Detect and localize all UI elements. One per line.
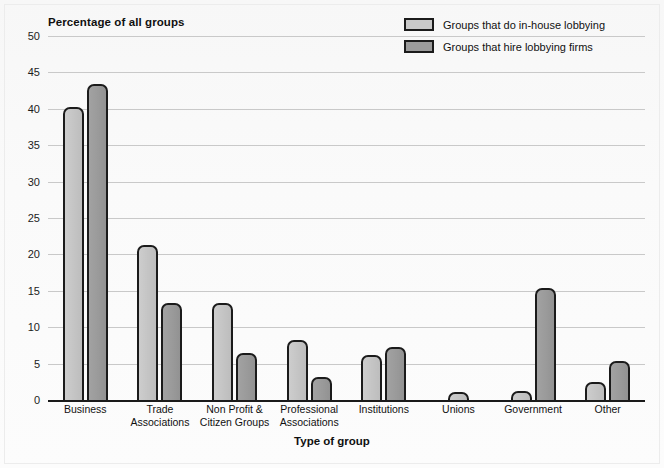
bar-group — [197, 36, 272, 400]
legend-label-in-house: Groups that do in-house lobbying — [443, 19, 605, 31]
bar-group — [421, 36, 496, 400]
y-axis-title: Percentage of all groups — [48, 16, 185, 28]
legend-swatch-in-house — [404, 18, 434, 31]
bar-group — [123, 36, 198, 400]
x-axis-tick-label: Government — [496, 403, 571, 429]
legend-label-hire-firms: Groups that hire lobbying firms — [443, 41, 593, 53]
bar — [385, 347, 406, 402]
x-axis-title: Type of group — [0, 435, 664, 447]
y-axis-tick-label: 20 — [28, 248, 40, 260]
chart-legend: Groups that do in-house lobbying Groups … — [404, 18, 605, 53]
x-axis-tick-label: TradeAssociations — [123, 403, 198, 429]
x-axis-tick-labels: BusinessTradeAssociationsNon Profit &Cit… — [48, 403, 645, 429]
bar — [311, 377, 332, 402]
legend-swatch-hire-firms — [404, 40, 434, 53]
bar — [137, 245, 158, 402]
bar — [535, 288, 556, 402]
bar — [212, 303, 233, 402]
y-axis-tick-label: 45 — [28, 66, 40, 78]
plot-area: 05101520253035404550 — [48, 36, 645, 400]
x-axis-tick-label: Non Profit &Citizen Groups — [197, 403, 272, 429]
bar-group — [347, 36, 422, 400]
bar — [448, 392, 469, 402]
y-axis-tick-label: 40 — [28, 103, 40, 115]
bar — [161, 303, 182, 402]
bar — [63, 107, 84, 402]
legend-item-in-house: Groups that do in-house lobbying — [404, 18, 605, 31]
bar — [511, 391, 532, 402]
y-axis-tick-label: 50 — [28, 30, 40, 42]
bar-group — [272, 36, 347, 400]
chart-page: Percentage of all groups Groups that do … — [0, 0, 664, 468]
y-axis-tick-label: 30 — [28, 176, 40, 188]
bar-group — [496, 36, 571, 400]
bar — [87, 84, 108, 402]
y-axis-tick-label: 10 — [28, 321, 40, 333]
y-axis-tick-label: 0 — [34, 394, 40, 406]
bar — [609, 361, 630, 402]
y-axis-tick-label: 25 — [28, 212, 40, 224]
bar — [236, 353, 257, 402]
y-axis-tick-label: 5 — [34, 358, 40, 370]
x-axis-tick-label: Unions — [421, 403, 496, 429]
bar-group — [48, 36, 123, 400]
bar — [361, 355, 382, 402]
bar-groups — [48, 36, 645, 400]
bar-group — [570, 36, 645, 400]
x-axis-tick-label: Other — [570, 403, 645, 429]
x-axis-tick-label: Institutions — [347, 403, 422, 429]
x-axis-tick-label: Business — [48, 403, 123, 429]
legend-item-hire-firms: Groups that hire lobbying firms — [404, 40, 605, 53]
y-axis-tick-label: 15 — [28, 285, 40, 297]
bar — [585, 382, 606, 402]
x-axis-tick-label: ProfessionalAssociations — [272, 403, 347, 429]
bar — [287, 340, 308, 402]
y-axis-tick-label: 35 — [28, 139, 40, 151]
